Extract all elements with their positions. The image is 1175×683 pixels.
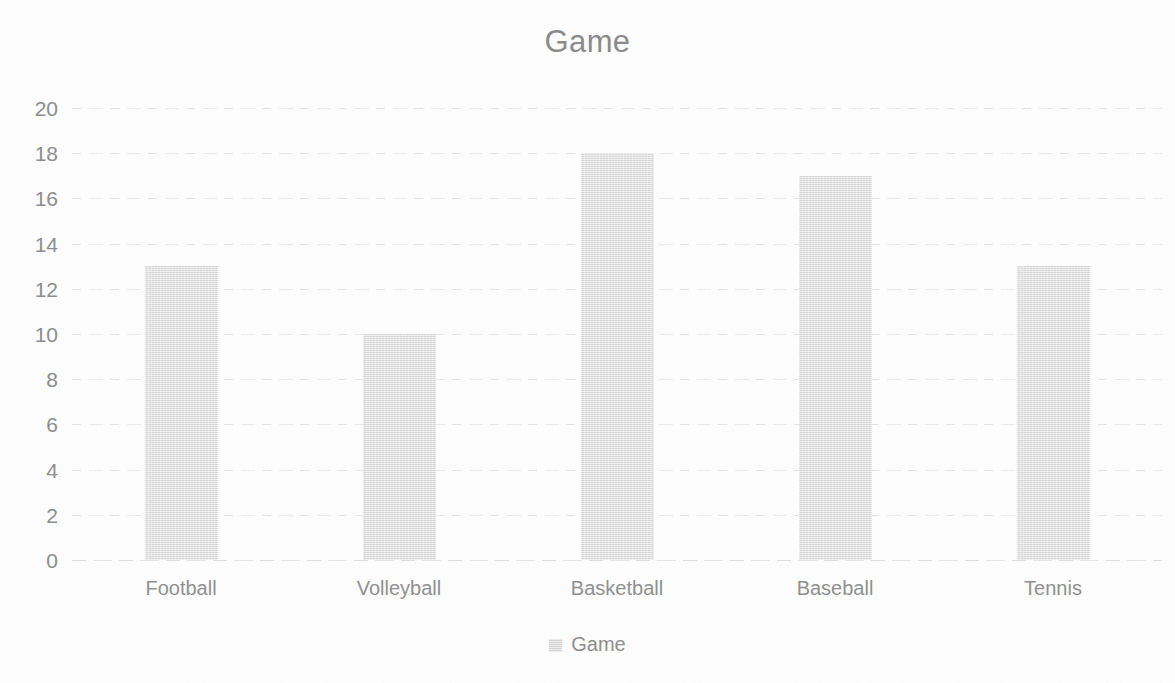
y-axis-tick-label: 10 bbox=[12, 324, 58, 345]
x-axis-tick-label: Baseball bbox=[797, 578, 874, 598]
bar-chart: Game 20181614121086420 FootballVolleybal… bbox=[0, 0, 1175, 683]
chart-title: Game bbox=[0, 26, 1175, 57]
y-axis-tick-label: 4 bbox=[12, 459, 58, 480]
chart-legend: Game bbox=[0, 634, 1175, 654]
x-axis-tick-label: Basketball bbox=[571, 578, 663, 598]
y-axis-tick-label: 16 bbox=[12, 188, 58, 209]
x-axis-tick-label: Tennis bbox=[1024, 578, 1082, 598]
y-axis-tick-label: 12 bbox=[12, 278, 58, 299]
bar[interactable] bbox=[363, 334, 436, 560]
bar[interactable] bbox=[145, 266, 218, 560]
axis-baseline bbox=[72, 560, 1162, 561]
y-axis-tick-label: 0 bbox=[12, 550, 58, 571]
y-axis-tick-label: 2 bbox=[12, 504, 58, 525]
legend-label: Game bbox=[571, 634, 625, 654]
bar[interactable] bbox=[1017, 266, 1090, 560]
gridline bbox=[72, 108, 1162, 109]
y-axis: 20181614121086420 bbox=[0, 108, 58, 560]
y-axis-tick-label: 20 bbox=[12, 98, 58, 119]
plot-area bbox=[72, 108, 1162, 560]
y-axis-tick-label: 14 bbox=[12, 233, 58, 254]
x-axis: FootballVolleyballBasketballBaseballTenn… bbox=[72, 578, 1162, 610]
y-axis-tick-label: 6 bbox=[12, 414, 58, 435]
y-axis-tick-label: 18 bbox=[12, 143, 58, 164]
legend-swatch-icon bbox=[549, 639, 562, 652]
bar[interactable] bbox=[581, 153, 654, 560]
bar[interactable] bbox=[799, 176, 872, 560]
y-axis-tick-label: 8 bbox=[12, 369, 58, 390]
x-axis-tick-label: Football bbox=[145, 578, 216, 598]
x-axis-tick-label: Volleyball bbox=[357, 578, 442, 598]
